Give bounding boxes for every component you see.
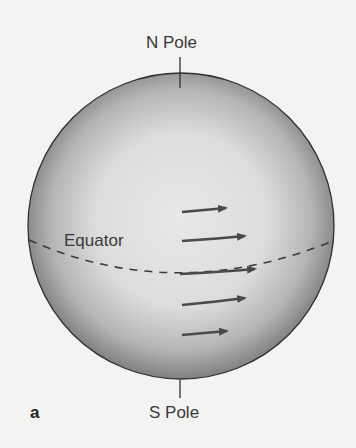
north-pole-label: N Pole xyxy=(146,33,197,53)
sphere-diagram xyxy=(0,0,356,448)
panel-label: a xyxy=(30,403,39,423)
south-pole-label: S Pole xyxy=(149,403,199,423)
equator-label: Equator xyxy=(64,231,124,251)
sphere xyxy=(28,73,334,379)
